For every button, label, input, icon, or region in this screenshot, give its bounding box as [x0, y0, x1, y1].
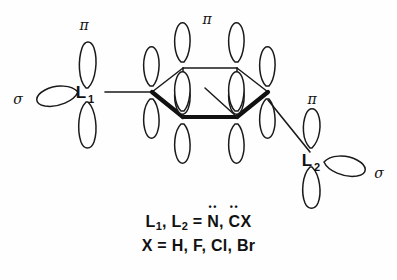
- figure-canvas: ring left-front vertex ============ -->: [0, 0, 397, 280]
- caption-line-1: L1, L2 = ••N, ••CX: [0, 212, 397, 236]
- lone-pair-dots-c: ••: [230, 205, 239, 210]
- caption-atom-c-group: ••C: [229, 212, 241, 232]
- caption-x: X: [240, 213, 251, 230]
- ligand1-label: L: [76, 83, 86, 102]
- caption-atom-n: N: [207, 213, 219, 230]
- caption-l1: L: [146, 213, 156, 230]
- ligand1-pi-label: π: [78, 17, 89, 33]
- lone-pair-dots-n: ••: [208, 205, 217, 210]
- ligand2-sigma-orbital: [324, 156, 365, 176]
- caption-equals: =: [188, 213, 207, 230]
- ligand2-subscript: 2: [314, 161, 320, 173]
- caption-line-2: X = H, F, Cl, Br: [0, 236, 397, 256]
- ligand2-label: L: [302, 151, 312, 170]
- ligand2-pi-label: π: [306, 91, 317, 107]
- caption-atom-c: C: [229, 213, 241, 230]
- ligand1-sigma-label: σ: [13, 91, 23, 107]
- caption-separator: ,: [219, 213, 229, 230]
- caption-atom-n-group: ••N: [207, 212, 219, 232]
- ring-pi-label: π: [201, 11, 212, 27]
- ligand2-sigma-label: σ: [374, 165, 384, 181]
- caption-comma-l: , L: [162, 213, 182, 230]
- ligand1-sigma-orbital: [37, 86, 78, 106]
- ligand1-subscript: 1: [88, 93, 94, 105]
- caption: L1, L2 = ••N, ••CX X = H, F, Cl, Br: [0, 212, 397, 256]
